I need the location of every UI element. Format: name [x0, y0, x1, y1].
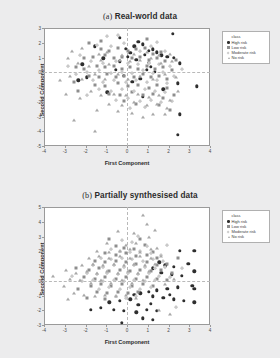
data-point-square — [75, 267, 78, 270]
legend-item-no-risk[interactable]: No risk — [226, 234, 268, 239]
data-point-square — [77, 89, 80, 92]
data-point-triangle — [78, 97, 82, 100]
data-point-square — [174, 58, 177, 61]
y-tick-mark — [42, 251, 44, 252]
data-point-triangle — [93, 295, 97, 298]
data-point-square — [106, 73, 109, 76]
data-point-triangle — [155, 246, 159, 249]
data-point-square — [85, 296, 88, 299]
data-point-triangle — [109, 281, 113, 284]
data-point-square — [108, 237, 111, 240]
data-point-square — [73, 80, 76, 83]
data-point-square — [147, 86, 150, 89]
legend-item-no-risk[interactable]: No risk — [226, 55, 268, 60]
data-point-triangle — [105, 270, 109, 273]
data-point-triangle — [87, 256, 91, 259]
x-tick-label: 4 — [209, 149, 212, 154]
y-tick-label: -2 — [37, 308, 41, 313]
data-point-square — [114, 245, 117, 248]
y-tick-label: 3 — [38, 26, 41, 31]
data-point-triangle — [128, 256, 132, 259]
x-reference-line — [127, 207, 128, 325]
x-tick-mark — [189, 146, 190, 148]
data-point-triangle — [120, 54, 124, 57]
y-tick-label: 1 — [38, 264, 41, 269]
data-point-square — [127, 49, 130, 52]
data-point-square — [95, 64, 98, 67]
data-point-square — [158, 74, 161, 77]
data-point-square — [133, 248, 136, 251]
x-tick-mark — [86, 325, 87, 327]
data-point-triangle — [157, 54, 161, 57]
data-point-triangle — [93, 73, 97, 76]
y-tick-label: -5 — [37, 144, 41, 149]
panel-b-legend: class High riskLow riskModerate riskNo r… — [222, 210, 270, 243]
y-tick-mark — [42, 131, 44, 132]
data-point-triangle — [138, 255, 142, 258]
y-tick-mark — [42, 58, 44, 59]
data-point-triangle — [126, 270, 130, 273]
data-point-triangle — [103, 77, 107, 80]
data-point-triangle — [99, 58, 103, 61]
data-point-triangle — [118, 255, 122, 258]
panel-b-title: (b) Partially synthesised data — [0, 191, 280, 200]
y-tick-label: 3 — [38, 234, 41, 239]
data-point-triangle — [145, 51, 149, 54]
data-point-square — [143, 46, 146, 49]
y-tick-label: -2 — [37, 99, 41, 104]
data-point-triangle — [105, 242, 109, 245]
data-point-square — [97, 76, 100, 79]
data-point-triangle — [153, 228, 157, 231]
data-point-triangle — [80, 77, 84, 80]
data-point-triangle — [64, 268, 68, 271]
data-point-triangle — [128, 60, 132, 63]
y-tick-mark — [42, 28, 44, 29]
data-point-square — [122, 100, 125, 103]
data-point-triangle — [107, 250, 111, 253]
y-tick-mark — [42, 117, 44, 118]
data-point-square — [122, 246, 125, 249]
x-tick-mark — [44, 146, 45, 148]
panel-a-title: (a) Real-world data — [0, 12, 280, 21]
data-point-triangle — [163, 283, 167, 286]
data-point-triangle — [116, 73, 120, 76]
y-tick-mark — [42, 72, 44, 73]
data-point-square — [104, 66, 107, 69]
data-point-triangle — [130, 281, 134, 284]
data-point-square — [170, 271, 173, 274]
y-tick-mark — [42, 43, 44, 44]
data-point-triangle — [138, 58, 142, 61]
panel-a-plot-area: 3210-1-2-3-4-5-4-3-2-101234 — [44, 28, 210, 146]
data-point-triangle — [157, 308, 161, 311]
data-point-triangle — [114, 295, 118, 298]
data-point-triangle — [159, 61, 163, 64]
data-point-square — [122, 74, 125, 77]
data-point-square — [162, 97, 165, 100]
data-point-square — [137, 83, 140, 86]
data-point-triangle — [132, 262, 136, 265]
data-point-triangle — [149, 57, 153, 60]
data-point-triangle — [124, 94, 128, 97]
data-point-triangle — [120, 279, 124, 282]
data-point-square — [156, 57, 159, 60]
data-point-triangle — [58, 79, 62, 82]
x-tick-mark — [189, 325, 190, 327]
panel-a-title-number: (a) — [103, 12, 112, 21]
data-point-square — [100, 283, 103, 286]
data-point-triangle — [132, 52, 136, 55]
x-tick-mark — [148, 325, 149, 327]
x-tick-label: 3 — [188, 328, 191, 333]
data-point-square — [145, 276, 148, 279]
data-point-square — [166, 279, 169, 282]
y-tick-label: -1 — [37, 293, 41, 298]
data-point-square — [112, 64, 115, 67]
data-point-square — [87, 42, 90, 45]
y-tick-label: -4 — [37, 129, 41, 134]
x-tick-mark — [169, 325, 170, 327]
data-point-triangle — [143, 264, 147, 267]
panel-b-plot-area: 543210-1-2-3-4-3-2-101234 — [44, 207, 210, 325]
data-point-square — [83, 57, 86, 60]
legend-items: High riskLow riskModerate riskNo risk — [226, 219, 268, 239]
x-tick-mark — [148, 146, 149, 148]
y-tick-mark — [42, 296, 44, 297]
